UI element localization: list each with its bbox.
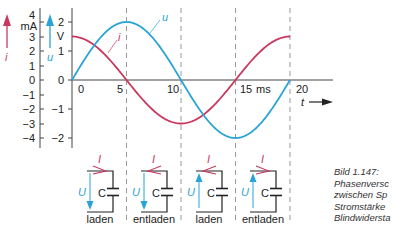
voltage-symbol: u (47, 51, 53, 63)
i-label-leader (108, 40, 117, 53)
caption-line: Bild 1.147: (334, 166, 391, 178)
current-arrow-icon (148, 166, 161, 174)
voltage-arrow-down-icon (141, 201, 148, 210)
ma-tick-m4: −4 (22, 132, 35, 144)
state-label: entladen (242, 213, 284, 225)
u-label-leader (150, 20, 160, 33)
current-arrow-icon (203, 166, 216, 174)
state-label: laden (196, 213, 223, 225)
t-tick-20: 20 (296, 83, 308, 95)
voltage-label: U (241, 186, 249, 198)
voltage-axis: 2 V 1 0 −1 −2 (51, 8, 72, 148)
ma-tick-1: 1 (29, 60, 35, 72)
current-label: I (207, 153, 210, 165)
v-tick-1: 1 (58, 45, 64, 57)
capacitor-label: C (207, 187, 215, 199)
v-tick-m2: −2 (51, 132, 64, 144)
figure-caption: Bild 1.147: Phasenversc zwischen Sp Stro… (334, 166, 391, 224)
v-unit: V (57, 30, 65, 42)
current-label: I (152, 153, 155, 165)
capacitor-label: C (261, 187, 269, 199)
wire (87, 171, 113, 188)
t-tick-0: 0 (78, 83, 84, 95)
time-symbol: t (301, 96, 305, 108)
current-label: I (261, 153, 264, 165)
capacitor-label: C (152, 187, 160, 199)
state-label: laden (87, 213, 114, 225)
voltage-arrow-up-icon (196, 173, 203, 182)
v-tick-0: 0 (58, 74, 64, 86)
voltage-label: U (78, 186, 86, 198)
t-tick-5: 5 (117, 83, 123, 95)
ma-tick-m2: −2 (22, 103, 35, 115)
current-symbol-arrow-icon (3, 14, 11, 48)
caption-line: Stromstärke (334, 201, 391, 213)
voltage-label: U (187, 186, 195, 198)
ma-tick-0: 0 (29, 74, 35, 86)
voltage-arrow-down-icon (87, 201, 94, 210)
i-curve-label: i (118, 31, 121, 43)
voltage-symbol-arrow-icon (46, 14, 54, 48)
time-arrow-icon (309, 99, 333, 106)
current-arrow-icon (93, 166, 106, 174)
caption-line: zwischen Sp (334, 189, 391, 201)
current-symbol: i (5, 51, 8, 63)
current-label: I (98, 153, 101, 165)
v-tick-2: 2 (58, 16, 64, 28)
current-axis: 4 mA 3 2 1 0 −1 −2 −3 −4 (21, 8, 45, 148)
caption-line: Blindwidersta (334, 212, 391, 224)
circuit-2: CIUentladen (132, 153, 175, 225)
current-arrow-icon (256, 166, 269, 174)
capacitor-label: C (98, 187, 106, 199)
ma-tick-2: 2 (29, 45, 35, 57)
ma-tick-3: 3 (29, 31, 35, 43)
circuit-3: CIUladen (187, 153, 228, 225)
voltage-label: U (132, 186, 140, 198)
ma-tick-m1: −1 (22, 89, 35, 101)
time-axis: 0 5 10 15 ms 20 t (72, 80, 333, 108)
t-tick-15: 15 (240, 83, 252, 95)
state-label: entladen (133, 213, 175, 225)
circuit-4: CIUentladen (241, 153, 284, 225)
circuit-1: CIUladen (78, 153, 119, 225)
voltage-arrow-up-icon (250, 173, 257, 182)
t-tick-10: 10 (167, 83, 179, 95)
ma-tick-m3: −3 (22, 118, 35, 130)
u-curve-label: u (162, 11, 168, 23)
wire (141, 171, 167, 188)
caption-line: Phasenversc (334, 178, 391, 190)
t-unit: ms (256, 83, 271, 95)
v-tick-m1: −1 (51, 103, 64, 115)
